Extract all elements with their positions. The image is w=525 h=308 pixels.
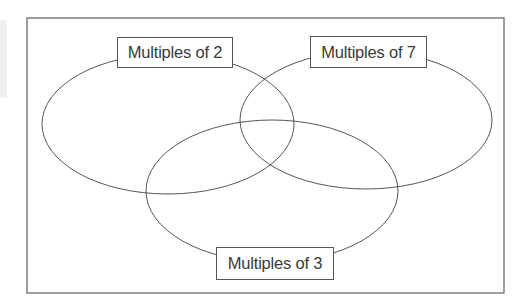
label-multiples-of-3: Multiples of 3 xyxy=(216,247,334,280)
label-multiples-of-2: Multiples of 2 xyxy=(117,37,233,68)
set-ellipse-multiples-of-3 xyxy=(146,120,398,262)
label-multiples-of-7: Multiples of 7 xyxy=(310,36,427,68)
set-ellipse-multiples-of-2 xyxy=(42,54,294,194)
